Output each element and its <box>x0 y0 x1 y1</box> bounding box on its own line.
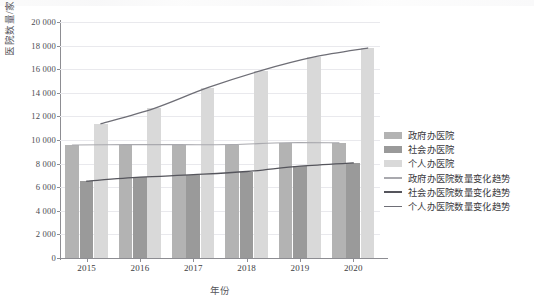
y-tick-label: 10 000 <box>31 135 56 145</box>
trend-line-社会办医院数量变化趋势 <box>87 163 354 181</box>
x-tick-mark <box>193 258 194 262</box>
legend-swatch-icon <box>384 146 402 153</box>
y-tick-label: 6 000 <box>36 182 56 192</box>
y-tick-mark <box>57 258 60 259</box>
trend-line-个人办医院数量变化趋势 <box>101 48 368 124</box>
x-tick-mark <box>87 258 88 262</box>
y-tick-label-wrap: 20 000 <box>12 17 56 27</box>
x-tick-label-2018: 2018 <box>224 263 270 273</box>
y-tick-label: 2 000 <box>36 229 56 239</box>
x-tick-mark <box>300 258 301 262</box>
trend-line-政府办医院数量变化趋势 <box>72 143 339 145</box>
legend-item-1[interactable]: 政府办医院 <box>384 128 534 142</box>
x-axis-title: 年份 <box>60 283 380 297</box>
y-tick-label: 18 000 <box>31 41 56 51</box>
y-tick-label: 4 000 <box>36 206 56 216</box>
legend-line-icon <box>384 203 402 210</box>
y-tick-label: 8 000 <box>36 159 56 169</box>
trend-lines-layer <box>60 22 380 258</box>
y-tick-label-wrap: 16 000 <box>12 64 56 74</box>
y-tick-label-wrap: 14 000 <box>12 88 56 98</box>
legend-label: 个人办医院数量变化趋势 <box>408 199 510 213</box>
plot-area <box>60 22 380 258</box>
legend-line-icon <box>384 174 402 181</box>
x-tick-label-2019: 2019 <box>277 263 323 273</box>
y-tick-label-wrap: 8 000 <box>12 159 56 169</box>
y-tick-label: 14 000 <box>31 88 56 98</box>
x-tick-label-2016: 2016 <box>117 263 163 273</box>
legend-item-4[interactable]: 政府办医院数量变化趋势 <box>384 171 534 185</box>
chart-legend: 政府办医院社会办医院个人办医院政府办医院数量变化趋势社会办医院数量变化趋势个人办… <box>384 128 534 213</box>
x-tick-label-2020: 2020 <box>330 263 376 273</box>
legend-item-2[interactable]: 社会办医院 <box>384 142 534 156</box>
y-tick-label-wrap: 2 000 <box>12 229 56 239</box>
legend-label: 社会办医院数量变化趋势 <box>408 185 510 199</box>
legend-label: 个人办医院 <box>408 156 455 170</box>
y-tick-label-wrap: 12 000 <box>12 111 56 121</box>
y-tick-label: 12 000 <box>31 111 56 121</box>
y-tick-label-wrap: 18 000 <box>12 41 56 51</box>
legend-label: 政府办医院 <box>408 128 455 142</box>
x-tick-label-2015: 2015 <box>64 263 110 273</box>
legend-label: 社会办医院 <box>408 142 455 156</box>
y-tick-label-wrap: 0 <box>12 253 56 263</box>
y-tick-label-wrap: 6 000 <box>12 182 56 192</box>
x-tick-label-2017: 2017 <box>170 263 216 273</box>
legend-line-stroke <box>384 191 402 192</box>
legend-item-3[interactable]: 个人办医院 <box>384 156 534 170</box>
x-axis-line <box>58 258 388 259</box>
x-tick-mark <box>353 258 354 262</box>
legend-label: 政府办医院数量变化趋势 <box>408 171 510 185</box>
y-tick-label-wrap: 4 000 <box>12 206 56 216</box>
top-edge-artifact <box>0 0 534 6</box>
y-tick-label: 20 000 <box>31 17 56 27</box>
x-tick-mark <box>247 258 248 262</box>
legend-item-5[interactable]: 社会办医院数量变化趋势 <box>384 185 534 199</box>
legend-line-stroke <box>384 206 402 207</box>
y-tick-label-wrap: 10 000 <box>12 135 56 145</box>
legend-swatch-icon <box>384 132 402 139</box>
x-tick-mark <box>140 258 141 262</box>
legend-line-icon <box>384 188 402 195</box>
legend-item-6[interactable]: 个人办医院数量变化趋势 <box>384 199 534 213</box>
chart-container: 医院数量/家 年份 02 0004 0006 0008 00010 00012 … <box>0 0 534 299</box>
legend-line-stroke <box>384 177 402 178</box>
y-tick-label: 0 <box>52 253 57 263</box>
legend-swatch-icon <box>384 160 402 167</box>
y-tick-label: 16 000 <box>31 64 56 74</box>
